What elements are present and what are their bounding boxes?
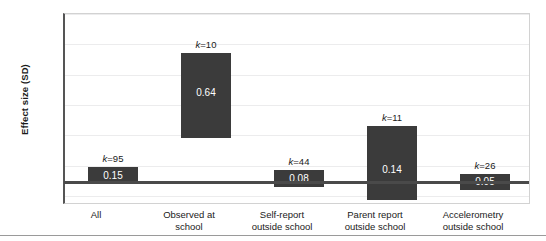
x-tick-line: outside school — [423, 221, 523, 233]
gridline — [65, 135, 529, 136]
bar-parent-report-outside-school[interactable]: 0.14 k=11 — [367, 126, 417, 200]
bar-k-label: k=10 — [141, 40, 271, 50]
gridline — [65, 14, 529, 15]
x-tick-line: outside school — [237, 221, 327, 233]
bar-self-report-outside-school[interactable]: 0.08 k=44 — [274, 170, 324, 187]
y-axis-title: Effect size (SD) — [19, 20, 30, 180]
effect-size-chart: Effect size (SD) 1.1 0.9 0.7 0.5 0.3 0.1… — [0, 0, 546, 241]
x-tick-label-self-report-outside-school: Self-report outside school — [237, 209, 327, 232]
footer-divider — [0, 235, 546, 236]
x-tick-label-accelerometry-outside-school: Accelerometry outside school — [423, 209, 523, 232]
gridline — [65, 105, 529, 106]
gridline — [65, 44, 529, 45]
bar-k-label: k=11 — [327, 113, 457, 123]
bar-observed-at-school[interactable]: 0.64 k=10 — [181, 53, 231, 138]
x-tick-line: All — [51, 209, 141, 221]
x-tick-line: Accelerometry — [423, 209, 523, 221]
bar-k-label: k=95 — [48, 154, 178, 164]
bar-value-label: 0.64 — [181, 87, 231, 98]
x-tick-line: outside school — [330, 221, 420, 233]
bar-k-label: k=26 — [420, 161, 546, 171]
x-tick-label-parent-report-outside-school: Parent report outside school — [330, 209, 420, 232]
x-tick-label-observed-at-school: Observed at school — [144, 209, 234, 232]
x-tick-line: Self-report — [237, 209, 327, 221]
gridline — [65, 75, 529, 76]
x-tick-line: Observed at — [144, 209, 234, 221]
x-tick-line: Parent report — [330, 209, 420, 221]
plot-area: 0.15 k=95 0.64 k=10 0.08 k=44 0.14 k=11 … — [63, 13, 530, 204]
bar-value-label: 0.14 — [367, 164, 417, 175]
x-tick-line: school — [144, 221, 234, 233]
bar-value-label: 0.15 — [88, 170, 138, 181]
x-tick-label-all: All — [51, 209, 141, 221]
bar-k-label: k=44 — [234, 157, 364, 167]
gridline — [65, 196, 529, 197]
zero-reference-line — [64, 181, 529, 184]
